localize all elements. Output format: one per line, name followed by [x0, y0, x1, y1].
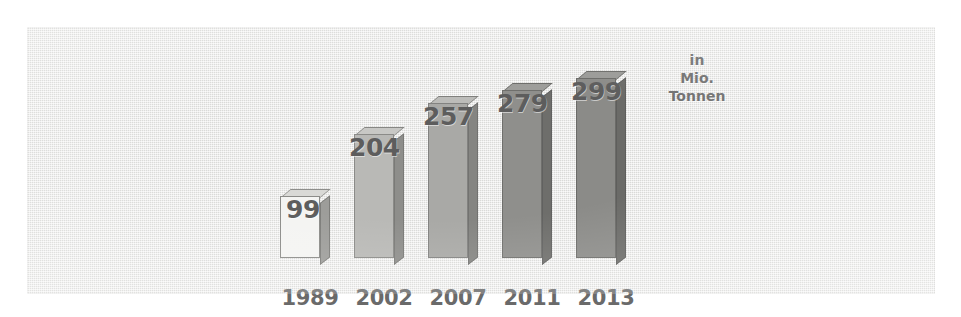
- year-label-2013: 2013: [566, 286, 646, 310]
- year-label-2007: 2007: [418, 286, 498, 310]
- unit-note: in Mio. Tonnen: [627, 51, 767, 105]
- year-label-2002: 2002: [344, 286, 424, 310]
- year-label-2011: 2011: [492, 286, 572, 310]
- value-label-1989: 99: [286, 195, 320, 224]
- value-label-2002: 204: [349, 133, 400, 162]
- unit-note-line-1: in: [627, 51, 767, 69]
- bar-side-face-1989: [320, 195, 330, 265]
- value-label-2013: 299: [571, 77, 622, 106]
- chart-panel: 99 1989 204 2002 257 2007: [27, 27, 935, 294]
- unit-note-line-3: Tonnen: [627, 87, 767, 105]
- plot-area: 99 1989 204 2002 257 2007: [27, 27, 935, 294]
- chart-screenshot: 99 1989 204 2002 257 2007: [0, 0, 961, 317]
- year-label-1989: 1989: [270, 286, 350, 310]
- value-label-2011: 279: [497, 89, 548, 118]
- value-label-2007: 257: [423, 102, 474, 131]
- unit-note-line-2: Mio.: [627, 69, 767, 87]
